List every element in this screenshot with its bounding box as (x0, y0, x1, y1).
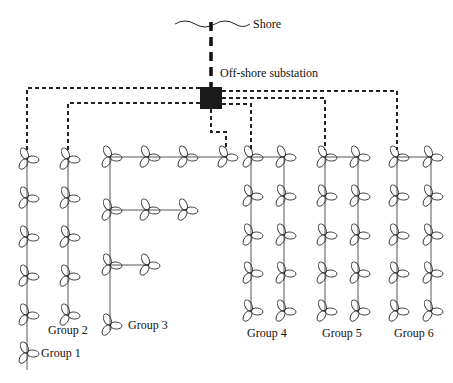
cable-group5 (222, 98, 325, 150)
cable-group2 (68, 103, 200, 150)
group6-turbines (387, 145, 443, 323)
cable-group6 (222, 91, 397, 150)
shore-label: Shore (253, 17, 281, 32)
substation-box (200, 87, 222, 109)
substation-label: Off-shore substation (220, 66, 318, 81)
group2-turbines (58, 147, 80, 327)
group5-turbines (315, 145, 370, 323)
group5-label: Group 5 (322, 326, 362, 341)
cable-group1 (27, 88, 200, 150)
group3-label: Group 3 (128, 318, 168, 333)
group2-label: Group 2 (48, 323, 88, 338)
group1-turbines (17, 147, 39, 365)
group4-turbines (241, 145, 296, 323)
group3-turbines (100, 145, 238, 337)
group4-label: Group 4 (247, 326, 287, 341)
group6-label: Group 6 (394, 326, 434, 341)
group1-label: Group 1 (41, 346, 81, 361)
cable-group3 (211, 109, 226, 150)
